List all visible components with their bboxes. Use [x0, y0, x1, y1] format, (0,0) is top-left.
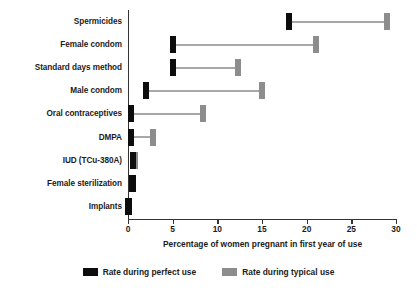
chart-row: Female condom: [0, 33, 417, 56]
typical-use-marker: [384, 13, 390, 30]
x-axis-title: Percentage of women pregnant in first ye…: [128, 240, 397, 248]
legend-entry-typical: Rate during typical use: [222, 268, 334, 276]
chart-row: IUD (TCu-380A): [0, 149, 417, 172]
chart-row: Spermicides: [0, 10, 417, 33]
range-connector: [149, 90, 265, 92]
x-tick-label: 25: [347, 225, 356, 233]
contraceptive-failure-rate-chart: SpermicidesFemale condomStandard days me…: [0, 0, 417, 295]
x-tick-label: 0: [126, 225, 131, 233]
perfect-use-marker: [125, 198, 131, 215]
chart-row: Male condom: [0, 79, 417, 102]
category-label-iud-tcu-380a: IUD (TCu-380A): [0, 157, 122, 165]
range-connector: [176, 67, 241, 69]
typical-use-marker: [235, 59, 241, 76]
category-label-male-condom: Male condom: [0, 87, 122, 95]
category-label-female-condom: Female condom: [0, 41, 122, 49]
category-label-female-sterilization: Female sterilization: [0, 180, 122, 188]
chart-row: Female sterilization: [0, 172, 417, 195]
perfect-use-marker: [170, 36, 176, 53]
category-label-spermicides: Spermicides: [0, 18, 122, 26]
perfect-use-marker: [128, 105, 134, 122]
x-tick-label: 20: [302, 225, 311, 233]
perfect-use-marker: [143, 82, 149, 99]
typical-use-marker: [150, 129, 156, 146]
x-tick-label: 5: [170, 225, 175, 233]
chart-row: Implants: [0, 195, 417, 218]
category-label-dmpa: DMPA: [0, 134, 122, 142]
category-label-standard-days-method: Standard days method: [0, 64, 122, 72]
perfect-use-marker: [129, 175, 135, 192]
perfect-use-marker: [286, 13, 292, 30]
perfect-use-marker: [170, 59, 176, 76]
chart-row: DMPA: [0, 126, 417, 149]
legend-entry-perfect: Rate during perfect use: [83, 268, 197, 276]
x-tick-label: 30: [391, 225, 400, 233]
category-label-implants: Implants: [0, 203, 122, 211]
x-tick-label: 15: [257, 225, 266, 233]
category-label-oral-contraceptives: Oral contraceptives: [0, 110, 122, 118]
x-tick-label: 10: [213, 225, 222, 233]
legend-label: Rate during perfect use: [103, 268, 197, 276]
range-connector: [176, 44, 319, 46]
range-connector: [292, 21, 390, 23]
typical-use-marker: [313, 36, 319, 53]
chart-row: Standard days method: [0, 56, 417, 79]
legend-swatch-perfect-icon: [83, 268, 98, 276]
chart-legend: Rate during perfect useRate during typic…: [0, 268, 417, 276]
chart-row: Oral contraceptives: [0, 102, 417, 125]
legend-swatch-typical-icon: [222, 268, 237, 276]
perfect-use-marker: [130, 152, 136, 169]
range-connector: [134, 113, 206, 115]
typical-use-marker: [200, 105, 206, 122]
legend-label: Rate during typical use: [242, 268, 334, 276]
perfect-use-marker: [128, 129, 134, 146]
typical-use-marker: [259, 82, 265, 99]
